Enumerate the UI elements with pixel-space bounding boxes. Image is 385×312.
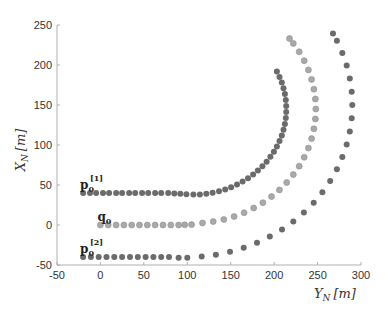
data-point (197, 191, 203, 197)
data-point (143, 254, 149, 260)
data-point (127, 254, 133, 260)
data-point (277, 74, 283, 80)
data-point (344, 63, 350, 69)
data-point (330, 31, 336, 37)
data-point (160, 222, 166, 228)
data-point (168, 222, 174, 228)
data-point (327, 178, 333, 184)
data-point (334, 38, 340, 44)
data-point (203, 191, 209, 197)
data-point (277, 138, 283, 144)
data-point (183, 191, 189, 197)
data-point (222, 186, 228, 192)
data-point (152, 222, 158, 228)
data-point (177, 191, 183, 197)
data-point (283, 109, 289, 115)
data-point (190, 192, 196, 198)
data-point (234, 182, 240, 188)
data-point (309, 76, 315, 82)
data-point (296, 49, 302, 55)
x-tick-label: 150 (222, 269, 240, 281)
data-point (260, 200, 266, 206)
data-point (301, 210, 307, 216)
data-point (144, 222, 150, 228)
data-point (271, 149, 277, 155)
data-point (311, 200, 317, 206)
data-point (313, 106, 319, 112)
data-point (228, 184, 234, 190)
data-point (349, 115, 355, 121)
data-point (240, 179, 246, 185)
data-point (305, 145, 311, 151)
data-point (287, 36, 293, 42)
data-point (339, 154, 345, 160)
x-axis-title: YN[m] (314, 286, 357, 303)
y-tick-label: -50 (36, 259, 52, 271)
series-layer (80, 31, 355, 261)
data-point (145, 190, 151, 196)
data-point (264, 159, 270, 165)
y-tick-label: 250 (34, 19, 52, 31)
data-point (106, 190, 112, 196)
data-point (276, 187, 282, 193)
data-point (312, 96, 318, 102)
data-point (176, 255, 182, 261)
data-point (283, 103, 289, 109)
data-point (284, 180, 290, 186)
data-point (250, 172, 256, 178)
x-tick-label: 50 (138, 269, 150, 281)
series-0 (80, 69, 289, 198)
data-point (189, 222, 195, 228)
x-tick-label: 0 (97, 269, 103, 281)
data-point (267, 234, 273, 240)
data-point (255, 168, 261, 174)
data-point (119, 254, 125, 260)
data-point (119, 190, 125, 196)
data-point (132, 190, 138, 196)
data-point (158, 254, 164, 260)
data-point (200, 220, 206, 226)
data-point (344, 141, 350, 147)
data-point (311, 86, 317, 92)
data-point (165, 190, 171, 196)
data-point (216, 188, 222, 194)
data-point (199, 253, 205, 259)
data-point (221, 217, 227, 223)
y-tick-label: 50 (40, 179, 52, 191)
data-point (150, 254, 156, 260)
data-point (176, 222, 182, 228)
data-point (135, 254, 141, 260)
data-point (319, 189, 325, 195)
data-point (282, 121, 288, 127)
annotation-label: q0 (97, 210, 111, 226)
data-point (279, 227, 285, 233)
data-point (126, 190, 132, 196)
data-point (269, 194, 275, 200)
data-point (166, 254, 172, 260)
data-point (113, 190, 119, 196)
data-point (259, 163, 265, 169)
trajectory-chart: -50050100150200250300 -50050100150200250… (0, 0, 385, 312)
data-point (290, 218, 296, 224)
data-point (104, 254, 110, 260)
x-tick-label: 200 (265, 269, 283, 281)
data-point (282, 91, 288, 97)
x-tick-label: 300 (352, 269, 370, 281)
data-point (210, 219, 216, 225)
data-point (349, 89, 355, 95)
data-point (334, 166, 340, 172)
data-point (241, 210, 247, 216)
data-point (283, 97, 289, 103)
data-point (339, 50, 345, 56)
data-point (281, 127, 287, 133)
data-point (267, 154, 273, 160)
y-tick-label: 150 (34, 99, 52, 111)
data-point (312, 116, 318, 122)
data-point (349, 102, 355, 108)
data-point (283, 115, 289, 121)
data-point (347, 128, 353, 134)
data-point (301, 154, 307, 160)
data-point (251, 205, 257, 211)
data-point (279, 80, 285, 86)
data-point (254, 240, 260, 246)
